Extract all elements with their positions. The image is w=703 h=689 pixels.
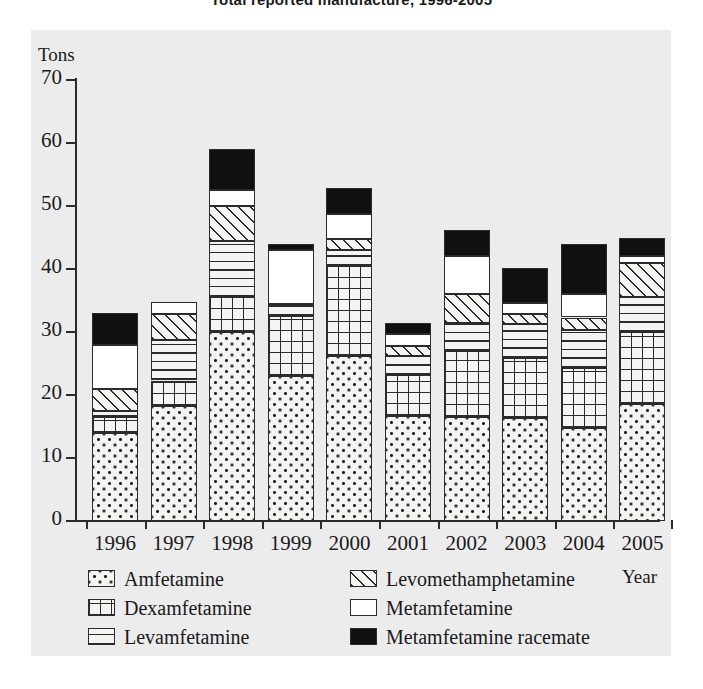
bar-segment-1998-amfetamine[interactable] [209, 332, 255, 521]
legend-label-racemate: Metamfetamine racemate [386, 624, 590, 650]
bar-segment-2000-levamfetamine[interactable] [326, 250, 372, 266]
bar-segment-1999-metamfetamine-racemate[interactable] [268, 244, 314, 250]
bar-segment-2003-levomethamphetamine[interactable] [502, 314, 548, 323]
bar-2000[interactable] [326, 0, 372, 521]
bar-segment-2000-metamfetamine-racemate[interactable] [326, 188, 372, 213]
chart-root: Total reported manufacture, 1996-2005 To… [0, 0, 703, 689]
legend-swatch-racemate [350, 628, 377, 645]
bar-2002[interactable] [444, 0, 490, 521]
bar-segment-2004-amfetamine[interactable] [561, 428, 607, 521]
bar-segment-2003-metamfetamine[interactable] [502, 303, 548, 314]
legend-swatch-levomethamphetamine [350, 570, 377, 587]
bar-segment-2003-metamfetamine-racemate[interactable] [502, 268, 548, 303]
bar-segment-2000-levomethamphetamine[interactable] [326, 239, 372, 250]
bar-segment-2005-levomethamphetamine[interactable] [619, 263, 665, 298]
legend-swatch-amfetamine [88, 570, 115, 587]
chart-legend: AmfetamineDexamfetamineLevamfetamineLevo… [88, 566, 608, 652]
bar-segment-2004-dexamfetamine[interactable] [561, 368, 607, 428]
legend-swatch-metamfetamine [350, 599, 377, 616]
bar-1998[interactable] [209, 0, 255, 521]
bar-segment-2001-metamfetamine[interactable] [385, 334, 431, 347]
bar-segment-2002-metamfetamine-racemate[interactable] [444, 230, 490, 256]
bar-segment-1996-levomethamphetamine[interactable] [92, 389, 138, 411]
bar-segment-2002-dexamfetamine[interactable] [444, 351, 490, 417]
bar-segment-1996-levamfetamine[interactable] [92, 411, 138, 417]
legend-swatch-dexamfetamine [88, 599, 115, 616]
bar-segment-1998-levamfetamine[interactable] [209, 241, 255, 298]
legend-label-levamfetamine: Levamfetamine [124, 624, 250, 650]
bar-segment-2002-levamfetamine[interactable] [444, 323, 490, 351]
bar-segment-1998-metamfetamine[interactable] [209, 190, 255, 206]
bar-segment-2001-metamfetamine-racemate[interactable] [385, 323, 431, 334]
bar-segment-1997-metamfetamine[interactable] [151, 302, 197, 315]
bar-segment-2004-levamfetamine[interactable] [561, 330, 607, 368]
bar-segment-2000-dexamfetamine[interactable] [326, 266, 372, 356]
bar-2001[interactable] [385, 0, 431, 521]
bar-segment-2004-metamfetamine[interactable] [561, 294, 607, 317]
bar-segment-2002-metamfetamine[interactable] [444, 256, 490, 294]
bar-segment-1999-amfetamine[interactable] [268, 376, 314, 521]
bar-1996[interactable] [92, 0, 138, 521]
bar-segment-1999-metamfetamine[interactable] [268, 250, 314, 304]
bar-segment-2000-amfetamine[interactable] [326, 356, 372, 521]
bar-segment-1996-amfetamine[interactable] [92, 433, 138, 521]
bar-segment-2000-metamfetamine[interactable] [326, 214, 372, 239]
bar-segment-1999-levamfetamine[interactable] [268, 304, 314, 317]
legend-swatch-levamfetamine [88, 628, 115, 645]
legend-label-metamfetamine: Metamfetamine [386, 595, 513, 621]
bar-1999[interactable] [268, 0, 314, 521]
bar-segment-2004-metamfetamine-racemate[interactable] [561, 244, 607, 294]
bar-segment-2004-levomethamphetamine[interactable] [561, 318, 607, 331]
bar-segment-2005-levamfetamine[interactable] [619, 297, 665, 332]
bar-segment-1997-dexamfetamine[interactable] [151, 381, 197, 406]
bar-2003[interactable] [502, 0, 548, 521]
bar-segment-1997-levamfetamine[interactable] [151, 340, 197, 381]
bar-segment-2005-metamfetamine[interactable] [619, 256, 665, 262]
bar-segment-2005-metamfetamine-racemate[interactable] [619, 238, 665, 257]
legend-label-dexamfetamine: Dexamfetamine [124, 595, 252, 621]
bar-segment-2002-levomethamphetamine[interactable] [444, 294, 490, 322]
bar-segment-2003-levamfetamine[interactable] [502, 324, 548, 359]
bar-segment-2003-dexamfetamine[interactable] [502, 358, 548, 418]
bar-segment-2003-amfetamine[interactable] [502, 418, 548, 521]
bar-segment-2001-levamfetamine[interactable] [385, 356, 431, 375]
bar-1997[interactable] [151, 0, 197, 521]
bar-2004[interactable] [561, 0, 607, 521]
bar-segment-2005-dexamfetamine[interactable] [619, 332, 665, 404]
bar-segment-1997-amfetamine[interactable] [151, 406, 197, 521]
bar-segment-1998-dexamfetamine[interactable] [209, 297, 255, 332]
bar-segment-1997-levomethamphetamine[interactable] [151, 314, 197, 339]
bar-segment-1996-metamfetamine-racemate[interactable] [92, 313, 138, 345]
bar-segment-2001-dexamfetamine[interactable] [385, 375, 431, 416]
bar-segment-2001-levomethamphetamine[interactable] [385, 346, 431, 355]
bar-segment-1998-levomethamphetamine[interactable] [209, 206, 255, 241]
bar-2005[interactable] [619, 0, 665, 521]
legend-label-amfetamine: Amfetamine [124, 566, 224, 592]
bar-segment-1998-metamfetamine-racemate[interactable] [209, 149, 255, 190]
bar-segment-2001-amfetamine[interactable] [385, 416, 431, 521]
legend-label-levomethamphetamine: Levomethamphetamine [386, 566, 575, 592]
bar-segment-1996-dexamfetamine[interactable] [92, 417, 138, 433]
bar-segment-2002-amfetamine[interactable] [444, 417, 490, 521]
x-axis-label: Year [622, 566, 657, 588]
bar-segment-1996-metamfetamine[interactable] [92, 345, 138, 389]
bar-segment-1999-dexamfetamine[interactable] [268, 316, 314, 376]
bar-segment-2005-amfetamine[interactable] [619, 404, 665, 521]
